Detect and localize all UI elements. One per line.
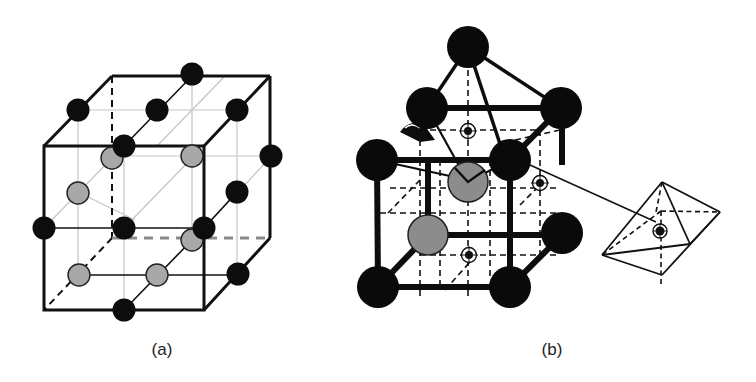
interstitial-site-icon [531, 174, 549, 192]
panel-b-cell [356, 26, 583, 308]
interstitial-site-icon [460, 246, 478, 264]
panel-b-label: (b) [542, 340, 563, 360]
octahedron-inset [602, 182, 720, 285]
panel-a-label: (a) [152, 340, 173, 360]
crystal-structure-figure [0, 0, 756, 382]
octahedron-center-site-icon [653, 224, 667, 238]
interstitial-site-icon [459, 122, 477, 140]
pyramid-lines-b [427, 47, 561, 150]
panel-a-cube [33, 63, 283, 322]
